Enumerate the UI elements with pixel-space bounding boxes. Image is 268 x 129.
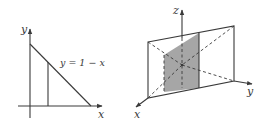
z-axis-label: z: [172, 4, 179, 17]
shaded-cross-section: [164, 33, 199, 92]
left-x-axis-label: x: [98, 108, 105, 121]
line-y-equals-1-minus-x: [30, 44, 91, 106]
origin-point: [181, 64, 183, 66]
x-axis-label: x: [134, 108, 141, 121]
curve-label: y = 1 − x: [59, 57, 105, 68]
right-figure: [136, 10, 252, 107]
y-axis-label: y: [246, 85, 254, 98]
left-y-axis-label: y: [20, 23, 28, 36]
x-axis-outer: [136, 98, 148, 107]
figure-canvas: y x y = 1 − x z x y: [0, 0, 268, 129]
left-figure: [18, 29, 102, 118]
y-axis-outer: [234, 81, 252, 84]
